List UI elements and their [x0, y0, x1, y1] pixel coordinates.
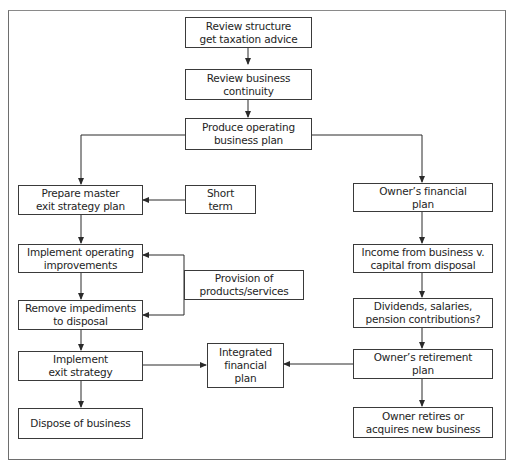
- node-implement-exit: Implement exit strategy: [18, 351, 143, 381]
- node-owners-financial-plan: Owner’s financial plan: [353, 183, 493, 212]
- node-operating-improvements: Implement operating improvements: [18, 244, 143, 273]
- node-review-structure: Review structure get taxation advice: [185, 17, 312, 48]
- node-short-term: Short term: [185, 185, 256, 214]
- node-master-exit-plan: Prepare master exit strategy plan: [18, 185, 143, 215]
- node-income-vs-capital: Income from business v. capital from dis…: [353, 244, 493, 273]
- node-dispose-business: Dispose of business: [18, 408, 143, 439]
- node-integrated-plan: Integrated financial plan: [207, 343, 284, 388]
- node-dividends-salaries: Dividends, salaries, pension contributio…: [353, 298, 493, 328]
- node-owner-retires: Owner retires or acquires new business: [353, 407, 493, 438]
- node-provision-products: Provision of products/services: [184, 270, 304, 300]
- node-remove-impediments: Remove impediments to disposal: [18, 300, 143, 330]
- node-operating-plan: Produce operating business plan: [185, 118, 312, 150]
- node-review-continuity: Review business continuity: [185, 69, 312, 100]
- node-owners-retirement-plan: Owner’s retirement plan: [353, 349, 493, 379]
